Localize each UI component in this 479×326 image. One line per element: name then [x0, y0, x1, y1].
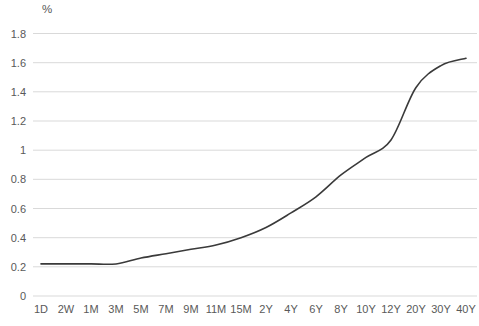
- x-axis-tick-label: 15M: [230, 303, 251, 315]
- x-axis-tick-label: 10Y: [356, 303, 376, 315]
- x-axis-tick-label: 1M: [83, 303, 98, 315]
- x-axis-tick-label: 20Y: [406, 303, 426, 315]
- y-axis-tick-label: 1.8: [11, 28, 26, 40]
- yield-curve-line: [41, 58, 466, 264]
- y-axis-tick-label: 0.8: [11, 173, 26, 185]
- x-axis-tick-label: 40Y: [456, 303, 476, 315]
- x-axis-tick-label: 1D: [34, 303, 48, 315]
- y-axis-tick-label: 1: [20, 144, 26, 156]
- x-axis-tick-label: 8Y: [334, 303, 348, 315]
- x-axis-tick-label: 2W: [58, 303, 75, 315]
- y-axis-tick-label: 0.2: [11, 261, 26, 273]
- x-axis-tick-label: 30Y: [431, 303, 451, 315]
- chart-canvas: 00.20.40.60.811.21.41.61.81D2W1M3M5M7M9M…: [0, 0, 479, 326]
- y-axis-tick-label: 0.6: [11, 203, 26, 215]
- x-axis-tick-label: 11M: [206, 303, 227, 315]
- y-axis-tick-label: 1.2: [11, 115, 26, 127]
- x-axis-tick-label: 5M: [133, 303, 148, 315]
- x-axis-tick-label: 9M: [183, 303, 198, 315]
- y-axis-unit-label: %: [42, 3, 53, 15]
- y-axis-tick-label: 1.4: [11, 86, 26, 98]
- yield-curve-chart: % 00.20.40.60.811.21.41.61.81D2W1M3M5M7M…: [0, 0, 479, 326]
- x-axis-tick-label: 3M: [108, 303, 123, 315]
- x-axis-tick-label: 2Y: [259, 303, 273, 315]
- y-axis-tick-label: 0: [20, 290, 26, 302]
- x-axis-tick-label: 12Y: [381, 303, 401, 315]
- x-axis-tick-label: 6Y: [309, 303, 323, 315]
- x-axis-tick-label: 4Y: [284, 303, 298, 315]
- x-axis-tick-label: 7M: [158, 303, 173, 315]
- y-axis-tick-label: 1.6: [11, 57, 26, 69]
- y-axis-tick-label: 0.4: [11, 232, 26, 244]
